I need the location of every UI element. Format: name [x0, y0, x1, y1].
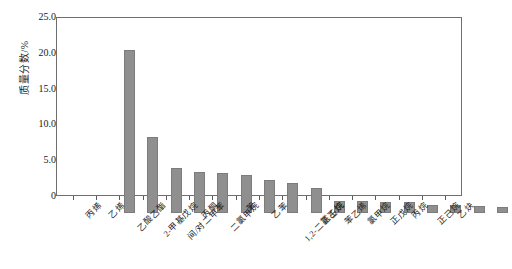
x-axis-tick-mark: [189, 196, 190, 200]
x-axis-tick-mark: [329, 196, 330, 200]
bar-slot: [211, 36, 234, 213]
x-axis-tick-mark: [259, 196, 260, 200]
bar-slot: [444, 36, 467, 213]
bar: [497, 207, 508, 213]
x-axis-tick-mark: [236, 196, 237, 200]
bar-slot: [467, 36, 490, 213]
y-axis-tick-label: 5.0: [16, 155, 56, 165]
bar-slot: [234, 36, 257, 213]
bar: [311, 188, 322, 213]
y-axis-tick-label: 15.0: [16, 84, 56, 94]
y-axis-tick-label: 10.0: [16, 119, 56, 129]
x-axis-tick-mark: [399, 196, 400, 200]
bar-slot: [281, 36, 304, 213]
x-axis-category-label: 丙烯: [84, 201, 103, 220]
bar: [147, 137, 158, 213]
bar-slot: [258, 36, 281, 213]
bar: [171, 168, 182, 213]
bar-slot: [304, 36, 327, 213]
x-axis-tick-mark: [445, 196, 446, 200]
x-axis-tick-mark: [375, 196, 376, 200]
bar-series: [114, 36, 512, 213]
y-axis-tick-label: 0: [16, 191, 56, 201]
y-axis-tick-label: 25.0: [16, 12, 56, 22]
bar: [124, 50, 135, 213]
bar-slot: [165, 36, 188, 213]
plot-area: [56, 17, 462, 196]
bar-slot: [141, 36, 164, 213]
bar-slot: [188, 36, 211, 213]
bar: [287, 183, 298, 213]
bar-slot: [398, 36, 421, 213]
x-axis-tick-mark: [306, 196, 307, 200]
bar-slot: [421, 36, 444, 213]
bar-slot: [118, 36, 141, 213]
x-axis-tick-mark: [143, 196, 144, 200]
bar-slot: [328, 36, 351, 213]
bar-slot: [491, 36, 512, 213]
y-axis-tick-label: 20.0: [16, 48, 56, 58]
bar-slot: [374, 36, 397, 213]
x-axis-tick-mark: [352, 196, 353, 200]
x-axis-tick-mark: [166, 196, 167, 200]
y-axis-title: 质量分数/%: [16, 13, 31, 123]
bar-slot: [351, 36, 374, 213]
x-axis-tick-mark: [73, 196, 74, 200]
